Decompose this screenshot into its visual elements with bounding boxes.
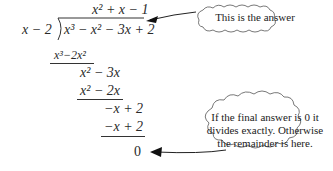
final-remainder: 0 <box>134 145 141 159</box>
quotient: x² + x − 1 <box>92 3 149 17</box>
divisor: x − 2 <box>22 23 52 37</box>
subtract-term-3: −x + 2 <box>104 120 143 134</box>
remainder-term-1: x² − 3x <box>80 66 120 80</box>
subtract-term-2: x² − 2x <box>80 84 120 98</box>
subtract-term-1: x³−2x² <box>54 48 86 62</box>
callout-answer-text: This is the answer <box>200 11 310 24</box>
callout-remainder-line-1: If the final answer is 0 it <box>206 111 324 124</box>
callout-remainder-line-3: the remainder is here. <box>206 137 324 150</box>
callout-remainder-text: If the final answer is 0 it divides exac… <box>206 111 324 150</box>
dividend: x³ − x² − 3x + 2 <box>64 23 154 37</box>
arrow-head-icon <box>150 147 162 157</box>
division-bracket <box>58 18 61 40</box>
arrow-to-remainder <box>156 150 226 153</box>
subtract-rule-2 <box>77 99 123 100</box>
remainder-term-2: −x + 2 <box>104 102 143 116</box>
callout-remainder-line-2: divides exactly. Otherwise <box>206 124 324 137</box>
subtract-rule-3 <box>101 136 145 137</box>
subtract-rule-1 <box>50 63 94 64</box>
